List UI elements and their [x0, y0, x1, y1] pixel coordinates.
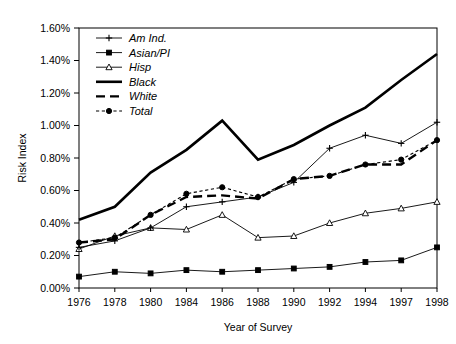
datapoint-total-1997: [399, 157, 404, 162]
datapoint-asian-pi-1997: [399, 258, 404, 263]
datapoint-asian-pi-1986: [220, 269, 225, 274]
legend-label-hisp: Hisp: [129, 61, 151, 73]
legend-marker-total: [106, 108, 111, 113]
datapoint-total-1994: [363, 162, 368, 167]
risk-index-line-chart: 0.00%0.20%0.40%0.60%0.80%1.00%1.20%1.40%…: [0, 0, 456, 344]
datapoint-asian-pi-1984: [184, 268, 189, 273]
y-axis-tick-label: 0.00%: [40, 282, 70, 294]
y-axis-tick-label: 1.20%: [40, 87, 70, 99]
legend-label-white: White: [129, 90, 157, 102]
x-axis-tick-label: 1998: [425, 296, 449, 308]
x-axis-tick-label: 1992: [318, 296, 342, 308]
chart-canvas: 0.00%0.20%0.40%0.60%0.80%1.00%1.20%1.40%…: [0, 0, 456, 344]
x-axis-title: Year of Survey: [224, 321, 293, 333]
y-axis-tick-label: 0.20%: [40, 249, 70, 261]
x-axis-tick-label: 1980: [139, 296, 163, 308]
legend-label-asian-pi: Asian/PI: [128, 47, 170, 59]
x-axis-tick-label: 1986: [211, 296, 235, 308]
legend-label-am-ind: Am Ind.: [128, 32, 167, 44]
datapoint-asian-pi-1988: [256, 268, 261, 273]
y-axis-tick-label: 0.80%: [40, 152, 70, 164]
datapoint-asian-pi-1998: [435, 245, 440, 250]
datapoint-total-1986: [220, 185, 225, 190]
legend-marker-asian-pi: [107, 50, 112, 55]
datapoint-asian-pi-1978: [112, 269, 117, 274]
x-axis-tick-label: 1990: [282, 296, 306, 308]
series-line-am-ind: [79, 122, 437, 247]
datapoint-hisp-1986: [219, 212, 225, 218]
legend-label-black: Black: [129, 76, 156, 88]
y-axis-tick-label: 0.40%: [40, 217, 70, 229]
datapoint-total-1984: [184, 191, 189, 196]
y-axis-tick-label: 1.60%: [40, 22, 70, 34]
datapoint-asian-pi-1994: [363, 260, 368, 265]
y-axis-tick-label: 0.60%: [40, 184, 70, 196]
datapoint-asian-pi-1990: [291, 266, 296, 271]
x-axis-tick-label: 1984: [175, 296, 199, 308]
datapoint-asian-pi-1980: [148, 271, 153, 276]
x-axis-tick-label: 1976: [67, 296, 91, 308]
x-axis-tick-label: 1994: [354, 296, 378, 308]
y-axis-tick-label: 1.00%: [40, 119, 70, 131]
series-line-hisp: [79, 202, 437, 249]
datapoint-hisp-1998: [434, 199, 440, 205]
x-axis-tick-label: 1988: [246, 296, 270, 308]
y-axis-title: Risk Index: [16, 133, 28, 183]
datapoint-asian-pi-1976: [77, 274, 82, 279]
y-axis-tick-label: 1.40%: [40, 54, 70, 66]
legend-label-total: Total: [129, 105, 153, 117]
x-axis-tick-label: 1978: [103, 296, 127, 308]
datapoint-asian-pi-1992: [327, 264, 332, 269]
x-axis-tick-label: 1997: [390, 296, 414, 308]
